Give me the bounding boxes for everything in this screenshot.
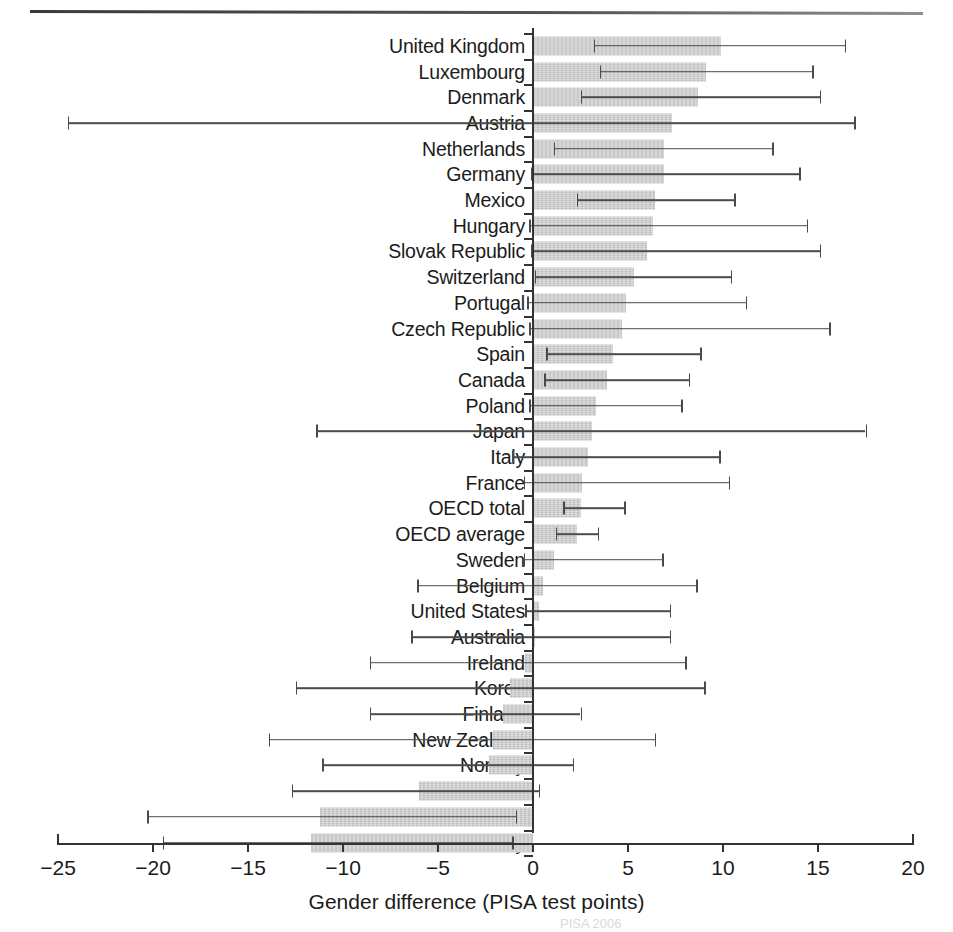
error-bar-line — [531, 174, 799, 176]
error-bar-cap-high — [670, 605, 672, 618]
y-tick — [524, 598, 533, 600]
chart-row: New Zealand — [0, 727, 953, 753]
error-bar-line — [292, 790, 539, 792]
y-tick — [524, 804, 533, 806]
category-label-holder: Luxembourg — [0, 59, 525, 85]
error-bar-cap-low — [581, 91, 583, 104]
error-bar-line — [544, 379, 688, 381]
category-label-holder: France — [0, 470, 525, 496]
category-label-holder: Slovak Republic — [0, 239, 525, 265]
plot-area: United KingdomLuxembourgDenmarkAustriaNe… — [0, 28, 953, 832]
x-tick-label: −5 — [426, 856, 450, 880]
chart-row: Belgium — [0, 573, 953, 599]
error-bar-cap-low — [322, 759, 324, 772]
category-label-holder: Canada — [0, 367, 525, 393]
y-tick — [524, 84, 533, 86]
chart-row: Australia — [0, 624, 953, 650]
error-bar-cap-low — [147, 810, 149, 823]
y-tick — [524, 778, 533, 780]
chart-row: Japan — [0, 419, 953, 445]
error-bar-cap-low — [525, 605, 527, 618]
error-bar-cap-high — [624, 502, 626, 515]
error-bar-line — [554, 148, 773, 150]
category-label: Mexico — [464, 189, 525, 212]
error-bar-line — [411, 636, 669, 638]
y-tick — [524, 727, 533, 729]
chart-row: Iceland — [0, 778, 953, 804]
error-bar-cap-high — [670, 630, 672, 643]
category-label: Portugal — [454, 291, 525, 314]
category-label: OECD total — [428, 497, 525, 520]
error-bar-line — [269, 739, 655, 741]
footer-note: PISA 2006 — [560, 916, 940, 930]
category-label-holder: Switzerland — [0, 264, 525, 290]
error-bar-cap-high — [812, 65, 814, 78]
error-bar-cap-high — [516, 810, 518, 823]
error-bar-cap-high — [598, 528, 600, 541]
error-bar-line — [524, 559, 663, 561]
category-label-holder: OECD average — [0, 521, 525, 547]
y-tick — [524, 675, 533, 677]
y-tick — [524, 573, 533, 575]
category-label: OECD average — [395, 523, 525, 546]
x-tick — [627, 843, 629, 852]
error-bar-cap-high — [719, 451, 721, 464]
error-bar-cap-high — [696, 579, 698, 592]
error-bar-cap-high — [729, 476, 731, 489]
chart-row: Austria — [0, 110, 953, 136]
y-tick — [524, 393, 533, 395]
error-bar-cap-low — [529, 399, 531, 412]
chart-row: Norway — [0, 753, 953, 779]
error-bar-cap-high — [539, 785, 541, 798]
y-tick — [524, 650, 533, 652]
x-tick-label: 10 — [711, 856, 734, 880]
chart-row: Canada — [0, 367, 953, 393]
error-bar-cap-high — [866, 425, 868, 438]
y-tick — [524, 470, 533, 472]
x-tick-label: 5 — [622, 856, 634, 880]
category-label-holder: United States — [0, 598, 525, 624]
y-tick — [524, 624, 533, 626]
error-bar-cap-low — [544, 373, 546, 386]
category-label: Czech Republic — [391, 317, 525, 340]
x-tick — [437, 843, 439, 852]
category-label: Sweden — [456, 548, 525, 571]
error-bar-cap-low — [370, 656, 372, 669]
error-bar-cap-low — [524, 476, 526, 489]
y-tick — [524, 290, 533, 292]
error-bar-line — [296, 688, 705, 690]
chart-row: Poland — [0, 393, 953, 419]
error-bar-cap-low — [554, 142, 556, 155]
error-bar-cap-high — [704, 682, 706, 695]
x-tick — [817, 843, 819, 852]
chart-row: Netherlands — [0, 136, 953, 162]
error-bar-line — [594, 45, 845, 47]
chart-row: United States — [0, 598, 953, 624]
chart-row: Switzerland — [0, 264, 953, 290]
error-bar-line — [525, 610, 669, 612]
category-label: Netherlands — [422, 137, 525, 160]
category-label-holder: Sweden — [0, 547, 525, 573]
error-bar-line — [546, 353, 700, 355]
category-label: Spain — [476, 343, 525, 366]
category-label: Germany — [446, 163, 525, 186]
error-bar-cap-high — [655, 733, 657, 746]
x-tick-label: −15 — [230, 856, 266, 880]
error-bar-cap-low — [512, 451, 514, 464]
category-label-holder: Netherlands — [0, 136, 525, 162]
y-tick — [524, 341, 533, 343]
y-tick — [524, 33, 533, 35]
chart-row: Korea — [0, 676, 953, 702]
error-bar-cap-low — [411, 630, 413, 643]
x-tick-label: 15 — [806, 856, 829, 880]
category-label-holder: Spain — [0, 341, 525, 367]
category-label: Slovak Republic — [388, 240, 525, 263]
x-tick-label: −10 — [325, 856, 361, 880]
category-label-holder: Italy — [0, 444, 525, 470]
error-bar-cap-high — [845, 39, 847, 52]
error-bar-line — [563, 508, 624, 510]
error-bar-line — [529, 405, 681, 407]
error-bar-line — [68, 122, 855, 124]
category-label-holder: Czech Republic — [0, 316, 525, 342]
error-bar-cap-low — [600, 65, 602, 78]
